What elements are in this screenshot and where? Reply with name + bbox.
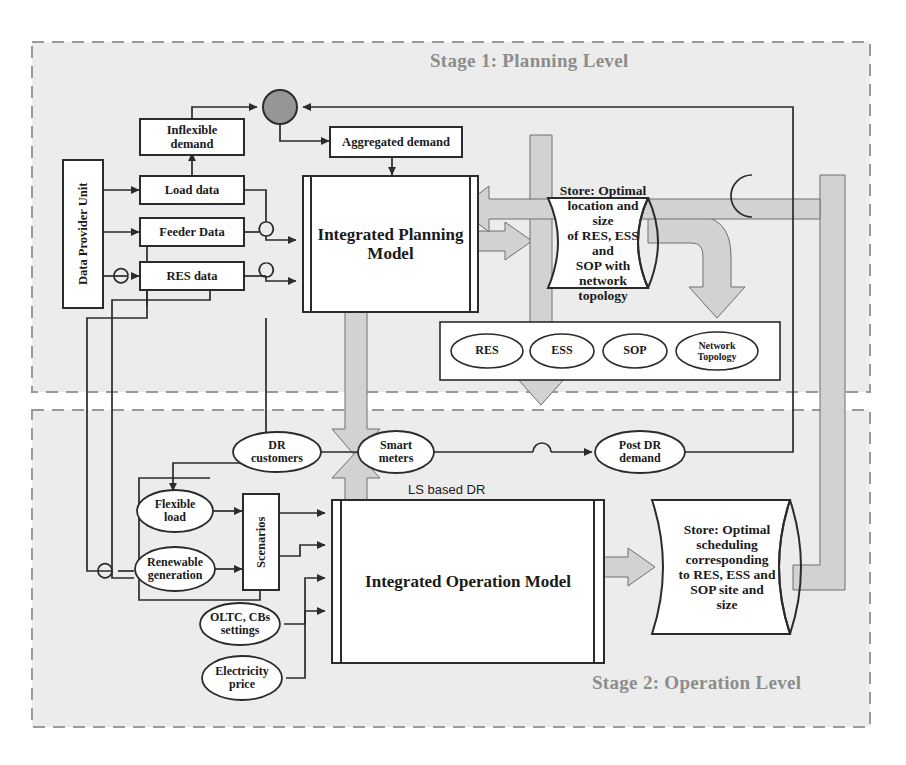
node-oltc-cbs-settings[interactable] (200, 603, 280, 645)
stage2-label: Stage 2: Operation Level (592, 672, 801, 694)
asset-ellipse-ess (530, 334, 594, 368)
node-dr-customers[interactable] (233, 432, 321, 472)
node-res-data[interactable] (140, 262, 244, 290)
stage1-label: Stage 1: Planning Level (430, 50, 629, 72)
node-operation-store[interactable] (652, 500, 801, 634)
figure-canvas: Stage 1: Planning Level Stage 2: Operati… (0, 0, 906, 765)
node-renewable-generation[interactable] (135, 547, 215, 591)
node-aggregated-demand[interactable] (330, 127, 462, 157)
node-integrated-planning-model[interactable] (303, 176, 478, 312)
node-inflexible-demand[interactable] (140, 119, 244, 155)
node-load-data[interactable] (140, 176, 244, 204)
asset-ellipse-res (451, 334, 523, 368)
node-integrated-operation-model[interactable] (332, 500, 604, 663)
node-post-dr-demand[interactable] (595, 431, 685, 473)
sum-junction-node[interactable] (263, 90, 297, 124)
node-feeder-data[interactable] (140, 218, 244, 246)
node-smart-meters[interactable] (358, 431, 434, 473)
node-flexible-load[interactable] (137, 490, 213, 532)
label-ls-based-dr: LS based DR (408, 482, 485, 497)
node-scenarios[interactable] (243, 494, 279, 590)
asset-ellipse-sop (603, 334, 667, 368)
diagram-vector-layer (0, 0, 906, 765)
asset-group-box (440, 322, 780, 380)
asset-ellipse-network-topology (676, 332, 758, 370)
node-data-provider-unit[interactable] (63, 160, 103, 308)
node-electricity-price[interactable] (202, 656, 282, 700)
